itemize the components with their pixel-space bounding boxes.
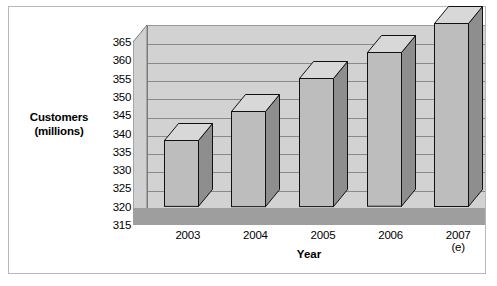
bar-shape (164, 123, 214, 208)
bar-2004[interactable] (231, 113, 265, 208)
chart-frame: Customers (millions) 3153203253303353403… (8, 6, 486, 274)
bar-2005[interactable] (299, 80, 333, 208)
x-axis-tick-label: 2005 (311, 229, 336, 241)
y-axis-tick-label: 355 (101, 73, 131, 85)
x-axis-tick-label: 2003 (175, 229, 200, 241)
y-axis-tick-label: 335 (101, 146, 131, 158)
y-axis-title-line-2: (millions) (15, 124, 103, 138)
bar-2003[interactable] (164, 142, 198, 208)
y-axis-tick-label: 345 (101, 109, 131, 121)
y-axis-title-line-1: Customers (15, 110, 103, 124)
x-axis-title: Year (133, 248, 485, 260)
x-axis-tick-label: 2006 (378, 229, 403, 241)
y-axis-tick-labels: 315320325330335340345350355360365 (101, 25, 131, 221)
y-axis-tick-label: 315 (101, 219, 131, 231)
bar-shape (299, 61, 349, 208)
y-axis-tick-label: 320 (101, 201, 131, 213)
y-axis-tick-label: 330 (101, 164, 131, 176)
bar-series (133, 25, 485, 225)
y-axis-tick-label: 360 (101, 54, 131, 66)
y-axis-tick-label: 325 (101, 182, 131, 194)
bar-2006[interactable] (367, 54, 401, 208)
y-axis-title: Customers (millions) (15, 110, 103, 138)
y-axis-tick-label: 350 (101, 91, 131, 103)
bar-shape (434, 6, 484, 208)
bar-shape (367, 35, 417, 208)
x-axis-tick-label: 2004 (243, 229, 268, 241)
y-axis-tick-label: 365 (101, 36, 131, 48)
bar-shape (231, 94, 281, 208)
y-axis-tick-label: 340 (101, 128, 131, 140)
bar-2007-e-[interactable] (434, 25, 468, 208)
x-axis-tick-labels: 20032004200520062007 (e) (133, 229, 493, 245)
